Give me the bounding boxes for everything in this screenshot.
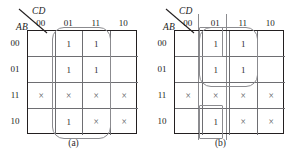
cell-value: 1 <box>83 31 110 57</box>
cell-value: 1 <box>56 31 83 57</box>
kmap-grid-b: 1 1 1 1 × × × × 1 × × <box>174 30 284 134</box>
cell-value: × <box>258 83 286 109</box>
column-header-00: 00 <box>27 17 55 29</box>
cell-a-r10-c10[interactable]: × <box>111 109 139 135</box>
figure-caption-b: (b) <box>147 138 294 148</box>
cell-b-r00-c00[interactable] <box>175 31 203 57</box>
cell-value: × <box>83 109 110 135</box>
column-header-11: 11 <box>229 17 257 29</box>
column-header-00: 00 <box>174 17 202 29</box>
cell-value: × <box>175 83 202 109</box>
cell-value: × <box>111 109 139 135</box>
row-header-10: 10 <box>4 108 26 134</box>
row-header-11: 11 <box>151 82 173 108</box>
cell-b-r00-c10[interactable] <box>258 31 286 57</box>
cell-a-r01-c11[interactable]: 1 <box>83 57 111 83</box>
column-header-10: 10 <box>110 17 138 29</box>
cell-value: × <box>258 109 286 135</box>
cell-a-r10-c11[interactable]: × <box>83 109 111 135</box>
cell-value: × <box>111 83 139 109</box>
cell-value: 1 <box>230 57 257 83</box>
column-axis-label: CD <box>32 6 46 16</box>
column-header-01: 01 <box>202 17 230 29</box>
cell-b-r00-c01[interactable]: 1 <box>203 31 231 57</box>
cell-b-r10-c11[interactable]: × <box>230 109 258 135</box>
cell-value: × <box>230 83 257 109</box>
row-header-10: 10 <box>151 108 173 134</box>
kmap-figure-a: CD AB 00 01 11 10 00 01 11 10 1 1 1 1 <box>0 0 147 158</box>
cell-b-r01-c00[interactable] <box>175 57 203 83</box>
column-header-01: 01 <box>55 17 83 29</box>
cell-a-r10-c01[interactable]: 1 <box>56 109 84 135</box>
cell-b-r10-c01[interactable]: 1 <box>203 109 231 135</box>
kmap-figure-pair: CD AB 00 01 11 10 00 01 11 10 1 1 1 1 <box>0 0 294 158</box>
cell-b-r01-c01[interactable]: 1 <box>203 57 231 83</box>
row-header-01: 01 <box>151 56 173 82</box>
kmap-grid-a: 1 1 1 1 × × × × 1 × × <box>27 30 137 134</box>
row-header-00: 00 <box>4 30 26 56</box>
cell-a-r00-c00[interactable] <box>28 31 56 57</box>
row-header-01: 01 <box>4 56 26 82</box>
cell-b-r11-c11[interactable]: × <box>230 83 258 109</box>
cell-b-r00-c11[interactable]: 1 <box>230 31 258 57</box>
cell-b-r11-c01[interactable]: × <box>203 83 231 109</box>
row-headers-a: 00 01 11 10 <box>4 30 26 134</box>
cell-a-r11-c01[interactable]: × <box>56 83 84 109</box>
cell-b-r11-c10[interactable]: × <box>258 83 286 109</box>
cell-b-r01-c11[interactable]: 1 <box>230 57 258 83</box>
column-header-11: 11 <box>82 17 110 29</box>
cell-b-r10-c00[interactable] <box>175 109 203 135</box>
cell-a-r00-c10[interactable] <box>111 31 139 57</box>
cell-a-r11-c11[interactable]: × <box>83 83 111 109</box>
cell-a-r00-c01[interactable]: 1 <box>56 31 84 57</box>
kmap-figure-b: CD AB 00 01 11 10 00 01 11 10 1 1 1 1 <box>147 0 294 158</box>
cell-a-r01-c00[interactable] <box>28 57 56 83</box>
cell-a-r01-c01[interactable]: 1 <box>56 57 84 83</box>
figure-caption-a: (a) <box>0 138 147 148</box>
row-header-11: 11 <box>4 82 26 108</box>
row-header-00: 00 <box>151 30 173 56</box>
cell-value: 1 <box>203 57 230 83</box>
cell-value: × <box>28 83 55 109</box>
cell-value: 1 <box>203 31 230 57</box>
cell-value: × <box>83 83 110 109</box>
cell-value: × <box>203 83 230 109</box>
column-headers-b: 00 01 11 10 <box>174 17 284 29</box>
cell-value: 1 <box>83 57 110 83</box>
column-axis-label: CD <box>179 6 193 16</box>
cell-a-r00-c11[interactable]: 1 <box>83 31 111 57</box>
cell-b-r11-c00[interactable]: × <box>175 83 203 109</box>
cell-b-r10-c10[interactable]: × <box>258 109 286 135</box>
cell-b-r01-c10[interactable] <box>258 57 286 83</box>
column-header-10: 10 <box>257 17 285 29</box>
cell-a-r01-c10[interactable] <box>111 57 139 83</box>
cell-a-r11-c10[interactable]: × <box>111 83 139 109</box>
cell-value: 1 <box>56 109 83 135</box>
cell-value: 1 <box>56 57 83 83</box>
cell-value: 1 <box>203 109 230 135</box>
cell-value: 1 <box>230 31 257 57</box>
cell-a-r10-c00[interactable] <box>28 109 56 135</box>
cell-a-r11-c00[interactable]: × <box>28 83 56 109</box>
row-headers-b: 00 01 11 10 <box>151 30 173 134</box>
cell-value: × <box>230 109 257 135</box>
cell-value: × <box>56 83 83 109</box>
column-headers-a: 00 01 11 10 <box>27 17 137 29</box>
